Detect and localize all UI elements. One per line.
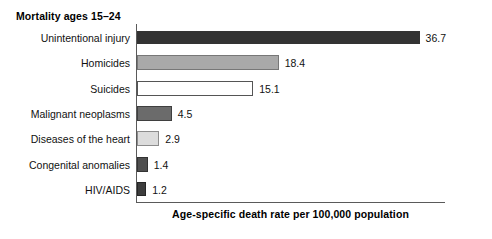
chart-row: HIV/AIDS1.2 xyxy=(0,178,492,203)
bar xyxy=(137,182,146,196)
bar-label: Suicides xyxy=(0,77,130,102)
bar-label: HIV/AIDS xyxy=(0,178,130,203)
bar-value-label: 1.4 xyxy=(154,153,169,178)
bar-value-label: 36.7 xyxy=(426,26,446,51)
bar-value-label: 1.2 xyxy=(152,178,167,203)
x-axis-caption: Age-specific death rate per 100,000 popu… xyxy=(136,208,445,220)
bar xyxy=(137,157,148,172)
bar-value-label: 18.4 xyxy=(285,51,305,76)
chart-row: Suicides15.1 xyxy=(0,77,492,102)
bar-value-label: 2.9 xyxy=(165,127,180,152)
bar xyxy=(137,81,253,96)
bar-label: Unintentional injury xyxy=(0,26,130,51)
chart-row: Congenital anomalies1.4 xyxy=(0,153,492,178)
bar xyxy=(137,131,159,146)
chart-row: Homicides18.4 xyxy=(0,51,492,76)
chart-row: Diseases of the heart2.9 xyxy=(0,127,492,152)
bar xyxy=(137,31,420,44)
chart-title: Mortality ages 15–24 xyxy=(16,10,121,22)
bar-label: Congenital anomalies xyxy=(0,153,130,178)
bar-value-label: 4.5 xyxy=(178,102,193,127)
bar-label: Homicides xyxy=(0,51,130,76)
bar-label: Malignant neoplasms xyxy=(0,102,130,127)
chart-row: Unintentional injury36.7 xyxy=(0,26,492,51)
bar-label: Diseases of the heart xyxy=(0,127,130,152)
bar xyxy=(137,106,172,121)
chart-row: Malignant neoplasms4.5 xyxy=(0,102,492,127)
bar-value-label: 15.1 xyxy=(259,77,279,102)
bar-chart: Mortality ages 15–24 Unintentional injur… xyxy=(0,0,492,239)
bar xyxy=(137,55,279,70)
